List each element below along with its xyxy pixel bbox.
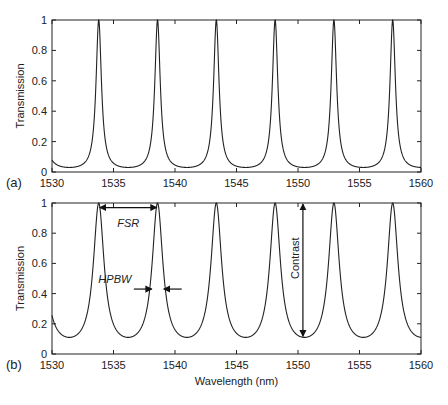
y-tick-label: 0.6 (32, 75, 47, 87)
y-tick-label: 0.2 (32, 318, 47, 330)
x-tick-label: 1545 (224, 177, 248, 189)
y-tick-label: 0 (41, 348, 47, 360)
x-tick-label: 1530 (40, 177, 64, 189)
x-tick-label: 1555 (347, 359, 371, 371)
x-tick-label: 1540 (163, 359, 187, 371)
transmission-curve (52, 203, 421, 337)
y-axis-label: Transmission (14, 246, 26, 311)
x-tick-label: 1535 (101, 177, 125, 189)
y-tick-label: 0.6 (32, 257, 47, 269)
y-tick-label: 0.4 (32, 288, 47, 300)
x-tick-label: 1560 (409, 177, 433, 189)
y-tick-label: 0.8 (32, 227, 47, 239)
x-tick-label: 1535 (101, 359, 125, 371)
y-tick-label: 0.8 (32, 44, 47, 56)
x-tick-label: 1545 (224, 359, 248, 371)
y-tick-label: 0.2 (32, 136, 47, 148)
x-tick-label: 1540 (163, 177, 187, 189)
transmission-curve (52, 20, 421, 167)
x-tick-label: 1555 (347, 177, 371, 189)
panel-label: (a) (6, 175, 22, 190)
y-axis-label: Transmission (14, 64, 26, 129)
chart-figure: 153015351540154515501555156000.20.40.60.… (0, 0, 448, 405)
y-tick-label: 1 (41, 197, 47, 209)
x-axis-label: Wavelength (nm) (195, 375, 278, 387)
x-tick-label: 1530 (40, 359, 64, 371)
y-tick-label: 0.4 (32, 105, 47, 117)
hpbw-label: HPBW (98, 273, 133, 285)
panel-label: (b) (6, 357, 22, 372)
x-tick-label: 1550 (286, 177, 310, 189)
x-tick-label: 1550 (286, 359, 310, 371)
y-tick-label: 0 (41, 166, 47, 178)
x-tick-label: 1560 (409, 359, 433, 371)
contrast-label: Contrast (289, 237, 301, 279)
y-tick-label: 1 (41, 14, 47, 26)
fsr-label: FSR (117, 217, 139, 229)
